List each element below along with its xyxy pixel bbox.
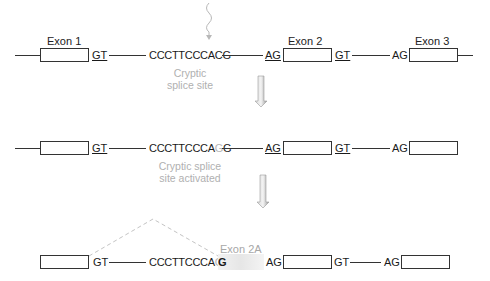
exon-1-box — [40, 255, 89, 269]
splice-junction-dashed-line — [0, 0, 490, 281]
acceptor-site-ag-3: AG — [384, 256, 400, 268]
donor-site-gt-1: GT — [93, 256, 108, 268]
acceptor-site-ag-2: AG — [266, 256, 282, 268]
intron-line — [350, 262, 381, 263]
exon-3-box — [401, 255, 450, 269]
exon-2a-start-base: G — [218, 256, 227, 268]
intron-line — [109, 262, 146, 263]
exon-2-box — [283, 255, 332, 269]
donor-site-gt-2: GT — [334, 256, 349, 268]
exon-2a-label: Exon 2A — [220, 243, 262, 255]
intron-sequence: CCCTTCCCAG — [149, 256, 223, 268]
